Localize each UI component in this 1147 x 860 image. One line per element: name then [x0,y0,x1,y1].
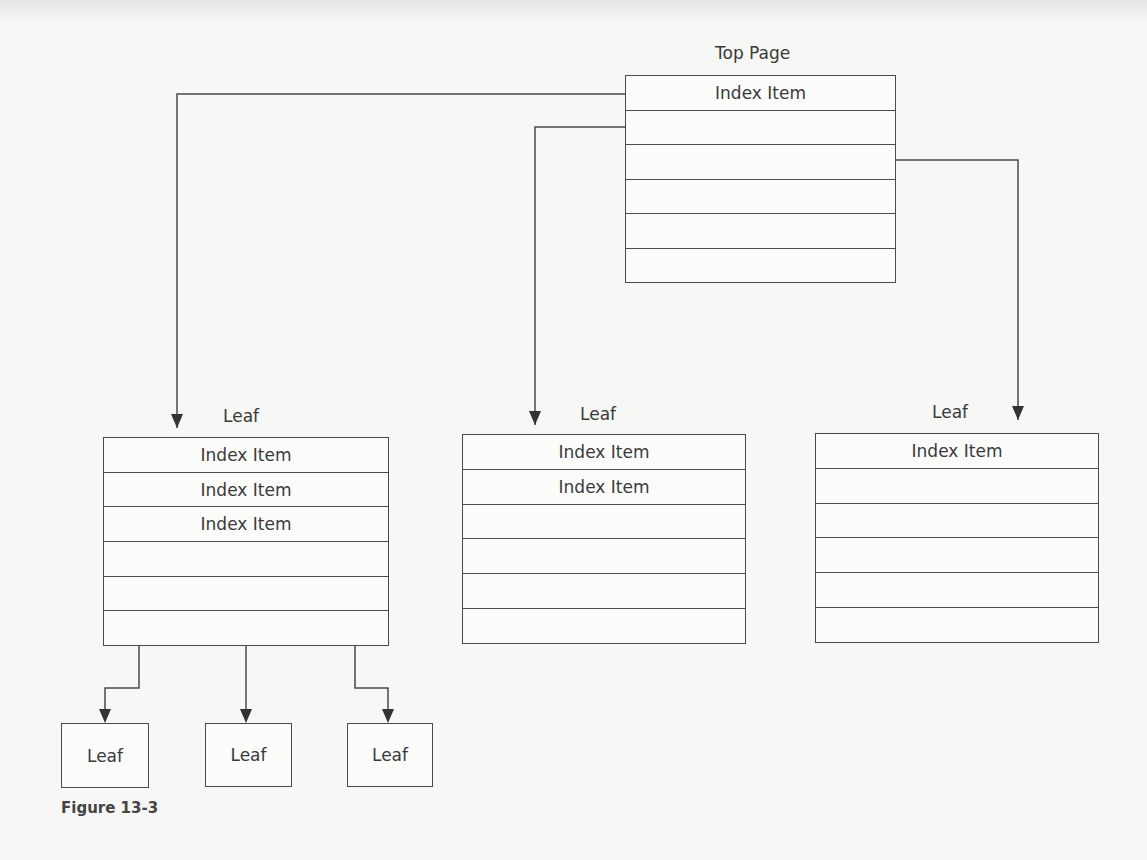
leaf-page-1: Index Item Index Item Index Item [103,437,389,646]
figure-caption: Figure 13-3 [61,799,158,817]
leaf-page-2-title: Leaf [580,404,616,424]
top-page-row [626,249,895,283]
leaf-page-row: Index Item [463,435,745,470]
top-page: Index Item [625,75,896,283]
top-page-title: Top Page [715,43,790,63]
connector-top-to-leaf-1 [177,94,625,428]
leaf-page-row [816,469,1098,504]
leaf-page-row: Index Item [104,473,388,508]
leaf-page-row [463,505,745,540]
leaf-page-row [816,538,1098,573]
arrow-head-icon [382,709,394,723]
leaf-page-row: Index Item [463,470,745,505]
child-leaf-1: Leaf [61,723,149,788]
top-page-row [626,180,895,215]
leaf-page-row [104,611,388,645]
arrow-head-icon [240,709,252,723]
leaf-page-3-title: Leaf [932,402,968,422]
leaf-page-row [104,542,388,577]
leaf-page-row [463,539,745,574]
arrow-head-icon [99,709,111,723]
top-page-row [626,214,895,249]
connector-top-to-leaf-3 [895,160,1018,420]
leaf-page-row [816,608,1098,642]
connector-lines [0,0,1147,860]
connector-top-to-leaf-2 [535,127,625,425]
leaf-page-3: Index Item [815,433,1099,643]
leaf-page-row: Index Item [104,507,388,542]
top-page-row [626,145,895,180]
top-page-row: Index Item [626,76,895,111]
leaf-page-row [816,573,1098,608]
leaf-page-2: Index Item Index Item [462,434,746,644]
leaf-page-row: Index Item [816,434,1098,469]
child-leaf-3: Leaf [347,723,433,787]
leaf-page-row [463,609,745,643]
top-page-row [626,111,895,146]
leaf-page-row: Index Item [104,438,388,473]
child-leaf-2: Leaf [205,723,292,787]
leaf-page-row [463,574,745,609]
connector-leaf-1-to-child-1 [105,645,139,715]
leaf-page-1-title: Leaf [223,406,259,426]
page-top-edge [0,0,1147,22]
leaf-page-row [104,577,388,612]
connector-leaf-1-to-child-3 [355,645,388,715]
arrow-head-icon [1012,406,1024,420]
leaf-page-row [816,504,1098,539]
arrow-head-icon [529,411,541,425]
arrow-head-icon [171,414,183,428]
